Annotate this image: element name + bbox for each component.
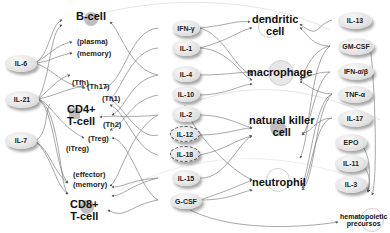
cd8-subtype-effector: (effector)	[73, 171, 106, 179]
cytokine-gm-csf: GM-CSF	[338, 38, 374, 55]
cd4-subtype-th17: (Th17)	[87, 83, 110, 91]
cytokine-il1: IL-1	[172, 40, 200, 56]
dendritic-cell-label: dendritic cell	[252, 14, 298, 37]
cytokine-tnf-alpha: TNF-α	[338, 86, 372, 103]
cytokine-il6: IL-6	[5, 55, 37, 72]
b-cell-subtype-plasma: (plasma)	[77, 38, 108, 46]
cytokine-il12: IL-12	[170, 126, 200, 142]
cd4-subtype-treg: (Treg)	[88, 135, 109, 143]
hematopoietic-precursors-label: hematopoietic precursos	[340, 213, 387, 228]
cd4-subtype-th2: (Th2)	[103, 121, 121, 129]
cytokine-il7: IL-7	[5, 132, 37, 149]
cd4-subtype-itreg: (iTreg)	[66, 145, 89, 153]
cytokine-il15: IL-15	[172, 170, 200, 186]
cytokine-il11: IL-11	[335, 155, 367, 172]
cytokine-ifn-gamma: IFN-γ	[172, 20, 200, 36]
natural-killer-cell-label: natural killer cell	[249, 115, 314, 138]
cytokine-il17: IL-17	[338, 110, 372, 127]
b-cell-label: B-cell	[76, 11, 106, 23]
cytokine-il2: IL-2	[172, 106, 200, 122]
cytokine-il21: IL-21	[5, 91, 39, 108]
cytokine-il3: IL-3	[335, 176, 367, 193]
cytokine-il4: IL-4	[172, 66, 200, 82]
cytokine-epo: EPO	[335, 134, 367, 151]
cytokine-g-csf: G-CSF	[170, 193, 202, 209]
cytokine-il10: IL-10	[172, 86, 200, 102]
macrophage-label: macrophage	[247, 67, 312, 79]
cd8-subtype-memory: (memory)	[73, 181, 107, 189]
cytokine-il18: IL-18	[170, 146, 200, 162]
neutrophil-label: neutrophil	[252, 177, 306, 189]
b-cell-subtype-memory: (memory)	[77, 50, 111, 58]
cd8-t-cell-label: CD8+ T-cell	[70, 199, 98, 222]
cytokine-il13: IL-13	[338, 12, 372, 29]
cytokine-network-diagram: IL-6 IL-21 IL-7 B-cell (plasma) (memory)…	[0, 0, 390, 233]
cytokine-ifn-alpha-beta: IFN-α/β	[338, 63, 374, 80]
cd4-t-cell-label: CD4+ T-cell	[67, 104, 95, 127]
cd4-subtype-th1: (Th1)	[102, 95, 120, 103]
